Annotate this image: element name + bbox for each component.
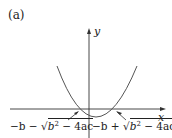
y-axis-arrow-icon [87,28,91,34]
right-root-label: −b + √b2 − 4ac [92,121,172,132]
right-root-rest: − 4ac [141,120,172,132]
panel-label: (a) [8,9,25,21]
left-root-radicand: b2 − 4ac [48,118,94,132]
y-axis-label: y [94,26,100,37]
right-root-radicand: b2 − 4ac [130,118,172,132]
left-root-label: −b − √b2 − 4ac [10,121,93,132]
left-root-rest: − 4ac [59,120,93,132]
left-root-prefix: −b − √ [10,120,48,132]
right-root-arrow-icon [116,111,122,115]
right-root-prefix: −b + √ [92,120,130,132]
